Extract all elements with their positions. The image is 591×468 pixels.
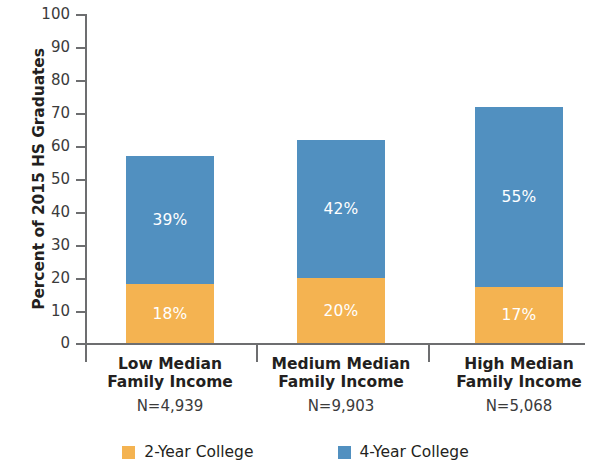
y-tick-10: [76, 311, 86, 313]
y-tick-label-100: 100: [10, 7, 70, 22]
segment-4-year-low-median[interactable]: 39%: [126, 156, 214, 284]
y-tick-100: [76, 14, 86, 16]
y-tick-label-90: 90: [10, 40, 70, 55]
category-label-low-median-line2: Family Income: [80, 373, 260, 391]
y-tick-label-10: 10: [10, 304, 70, 319]
segment-2-year-high-median[interactable]: 17%: [475, 287, 563, 343]
y-tick-label-0: 0: [10, 336, 70, 351]
y-tick-30: [76, 245, 86, 247]
category-label-medium-median-line2: Family Income: [251, 373, 431, 391]
category-label-low-median-line1: Low Median: [80, 355, 260, 373]
segment-4-year-medium-median[interactable]: 42%: [297, 140, 385, 278]
x-axis-line: [85, 343, 585, 345]
legend-item-2-year-college[interactable]: 2-Year College: [122, 443, 253, 461]
segment-label-4-year-medium-median: 42%: [324, 200, 359, 218]
segment-label-2-year-medium-median: 20%: [324, 302, 359, 320]
legend-swatch-2-year-college: [122, 446, 135, 459]
segment-2-year-low-median[interactable]: 18%: [126, 284, 214, 343]
y-tick-90: [76, 47, 86, 49]
segment-label-4-year-low-median: 39%: [153, 211, 188, 229]
segment-label-2-year-low-median: 18%: [153, 305, 188, 323]
segment-4-year-high-median[interactable]: 55%: [475, 107, 563, 287]
legend-label-2-year-college: 2-Year College: [144, 443, 253, 461]
category-label-low-median: Low Median Family Income: [80, 355, 260, 392]
legend-item-4-year-college[interactable]: 4-Year College: [338, 443, 469, 461]
segment-label-4-year-high-median: 55%: [502, 188, 537, 206]
stacked-bar-medium-median[interactable]: 42% 20%: [297, 140, 385, 343]
y-tick-label-40: 40: [10, 205, 70, 220]
category-label-high-median-line1: High Median: [429, 355, 591, 373]
y-tick-label-50: 50: [10, 172, 70, 187]
y-tick-80: [76, 80, 86, 82]
y-tick-label-80: 80: [10, 73, 70, 88]
category-n-medium-median: N=9,903: [251, 397, 431, 415]
category-label-medium-median: Medium Median Family Income: [251, 355, 431, 392]
y-tick-50: [76, 179, 86, 181]
segment-2-year-medium-median[interactable]: 20%: [297, 278, 385, 343]
y-tick-label-60: 60: [10, 139, 70, 154]
y-tick-40: [76, 212, 86, 214]
category-label-high-median-line2: Family Income: [429, 373, 591, 391]
category-label-medium-median-line1: Medium Median: [251, 355, 431, 373]
legend-label-4-year-college: 4-Year College: [360, 443, 469, 461]
stacked-bar-high-median[interactable]: 55% 17%: [475, 107, 563, 343]
stacked-bar-low-median[interactable]: 39% 18%: [126, 156, 214, 343]
category-n-high-median: N=5,068: [429, 397, 591, 415]
stacked-bar-chart: Percent of 2015 HS Graduates 100 90 80 7…: [0, 0, 591, 468]
y-tick-label-20: 20: [10, 271, 70, 286]
y-tick-label-30: 30: [10, 238, 70, 253]
category-label-high-median: High Median Family Income: [429, 355, 591, 392]
y-tick-70: [76, 113, 86, 115]
y-tick-label-70: 70: [10, 106, 70, 121]
y-tick-20: [76, 278, 86, 280]
segment-label-2-year-high-median: 17%: [502, 306, 537, 324]
y-tick-60: [76, 146, 86, 148]
chart-legend: 2-Year College 4-Year College: [0, 443, 591, 461]
category-n-low-median: N=4,939: [80, 397, 260, 415]
legend-swatch-4-year-college: [338, 446, 351, 459]
